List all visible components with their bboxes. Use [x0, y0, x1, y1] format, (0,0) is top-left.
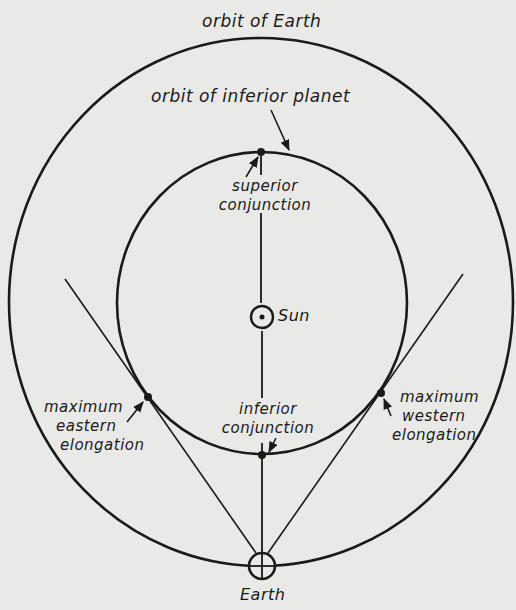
earth-icon	[249, 553, 275, 579]
label-orbit-of-inferior-planet: orbit of inferior planet	[151, 87, 350, 106]
orbit-diagram: orbit of Earth orbit of inferior planet …	[0, 0, 516, 610]
label-max-western-line2: western	[392, 407, 479, 426]
label-inferior-conjunction: inferior conjunction	[208, 400, 328, 438]
label-max-eastern-line2: eastern	[44, 417, 145, 436]
label-max-eastern-line1: maximum	[44, 398, 145, 417]
label-sun: Sun	[278, 306, 310, 325]
label-max-western-elongation: maximum western elongation	[392, 388, 479, 445]
arrow-inferior-conjunction	[269, 438, 276, 452]
label-inferior-conjunction-line2: conjunction	[208, 419, 328, 438]
label-inferior-conjunction-line1: inferior	[208, 400, 328, 419]
superior-conjunction-point	[257, 148, 265, 156]
sun-icon	[251, 306, 273, 328]
label-max-western-line3: elongation	[392, 426, 479, 445]
inferior-conjunction-point	[258, 451, 266, 459]
max-western-elongation-point	[377, 389, 385, 397]
arrow-max-western-elongation	[384, 399, 391, 416]
label-orbit-of-earth: orbit of Earth	[202, 12, 321, 31]
label-earth: Earth	[240, 585, 285, 604]
max-eastern-elongation-point	[144, 393, 152, 401]
label-superior-conjunction: superior conjunction	[205, 177, 325, 215]
label-max-western-line1: maximum	[392, 388, 479, 407]
label-superior-conjunction-line2: conjunction	[205, 196, 325, 215]
label-superior-conjunction-line1: superior	[205, 177, 325, 196]
label-max-eastern-line3: elongation	[44, 436, 145, 455]
label-max-eastern-elongation: maximum eastern elongation	[44, 398, 145, 455]
arrow-orbit-of-inferior-planet	[271, 110, 289, 150]
arrow-superior-conjunction	[246, 157, 258, 177]
